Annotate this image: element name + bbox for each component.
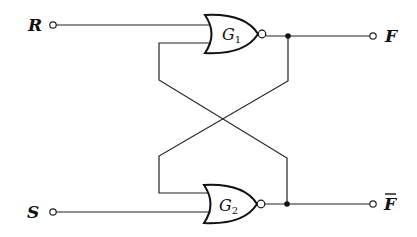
inverter-bubble-g1: [258, 30, 266, 38]
output-label-f: F: [384, 26, 399, 46]
nor-gate-g1: G1: [205, 15, 266, 53]
input-label-s: S: [27, 202, 39, 222]
output-terminal-f: [370, 33, 376, 39]
junction-dot-fbar: [284, 201, 290, 207]
input-terminal-s: [50, 209, 56, 215]
wire-g1-feedback-to-g2: [159, 36, 288, 193]
output-label-fbar: F: [383, 194, 398, 214]
input-label-r: R: [27, 15, 42, 35]
sr-latch-diagram: R G1 F G2 S F: [0, 0, 417, 237]
inverter-bubble-g2: [257, 200, 265, 208]
output-terminal-fbar: [370, 201, 376, 207]
wire-g2-feedback-to-g1: [159, 43, 287, 204]
input-terminal-r: [50, 22, 56, 28]
nor-gate-g2: G2: [204, 185, 265, 223]
